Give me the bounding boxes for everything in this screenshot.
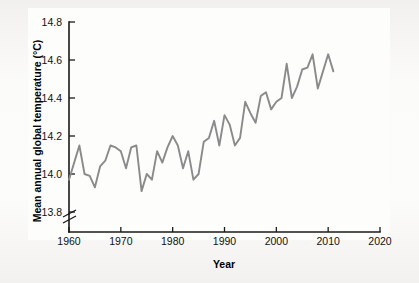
temperature-line-chart: Mean annual global temperature (°C) 13.8… xyxy=(0,0,419,283)
y-tick-label: 14.4 xyxy=(42,92,63,104)
temperature-data-line xyxy=(69,54,333,191)
x-tick-label: 1980 xyxy=(161,235,185,247)
y-tick-label: 13.8 xyxy=(42,206,63,218)
x-axis-title: Year xyxy=(213,258,235,270)
y-tick-label: 14.2 xyxy=(42,130,63,142)
x-tick-label: 1990 xyxy=(213,235,237,247)
x-tick-label: 1960 xyxy=(57,235,81,247)
chart-axes xyxy=(69,22,380,232)
x-tick-labels: 1960197019801990200020102020 xyxy=(57,235,392,247)
x-tick-label: 2020 xyxy=(368,235,392,247)
x-tick-label: 2000 xyxy=(265,235,289,247)
y-tick-labels: 13.814.014.214.414.614.8 xyxy=(42,16,63,218)
x-tick-label: 2010 xyxy=(316,235,340,247)
y-tick-label: 14.6 xyxy=(42,54,63,66)
chart-canvas: Mean annual global temperature (°C) 13.8… xyxy=(0,0,419,283)
x-tick-label: 1970 xyxy=(109,235,133,247)
y-tick-label: 14.8 xyxy=(42,16,63,28)
y-tick-label: 14.0 xyxy=(42,168,63,180)
